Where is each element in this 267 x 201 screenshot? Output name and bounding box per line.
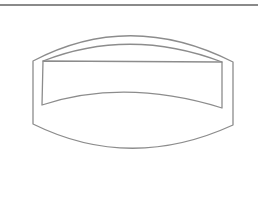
- mask-inner-band: [42, 61, 222, 108]
- mask-drawing: [0, 0, 267, 201]
